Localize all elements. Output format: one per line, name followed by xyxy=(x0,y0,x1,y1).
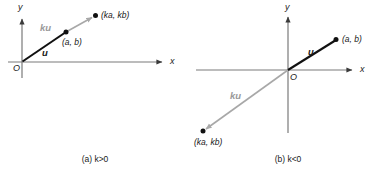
panel-a-ku-label: ku xyxy=(40,23,51,33)
panel-b-u-label: u xyxy=(308,47,314,57)
panel-b-origin-label: O xyxy=(290,73,297,82)
panel-a-axes xyxy=(8,19,162,78)
panel-a-u-label: u xyxy=(42,48,48,58)
panel-a-vectors xyxy=(23,13,99,62)
panel-b-vectors xyxy=(201,37,339,134)
panel-b-point-ab xyxy=(334,37,339,42)
panel-b-vector-ku xyxy=(206,70,288,129)
panel-b-caption: (b) k<0 xyxy=(243,155,333,164)
panel-a-point-kakb xyxy=(93,13,98,18)
panel-a-x-axis-label: x xyxy=(170,57,175,66)
panel-b-y-axis-label: y xyxy=(285,3,290,12)
panel-b-ku-label: ku xyxy=(230,91,241,101)
figure-canvas xyxy=(0,0,383,174)
panel-b-point-kakb xyxy=(201,129,206,134)
panel-b-axes xyxy=(196,17,352,133)
panel-a-point-kakb-label: (ka, kb) xyxy=(101,11,129,20)
panel-a-origin-label: O xyxy=(13,64,20,73)
vector-scalar-multiplication-figure: y x O u ku (a, b) (ka, kb) y x O u ku (a… xyxy=(0,0,383,174)
panel-a-point-ab xyxy=(64,30,69,35)
panel-b-x-axis-label: x xyxy=(360,65,365,74)
panel-a-vector-ku xyxy=(66,18,92,33)
panel-a-point-ab-label: (a, b) xyxy=(62,38,82,47)
panel-b-point-ab-label: (a, b) xyxy=(342,35,362,44)
panel-a-y-axis-label: y xyxy=(18,3,23,12)
panel-a-caption: (a) k>0 xyxy=(50,155,140,164)
panel-b-point-kakb-label: (ka, kb) xyxy=(194,138,222,147)
